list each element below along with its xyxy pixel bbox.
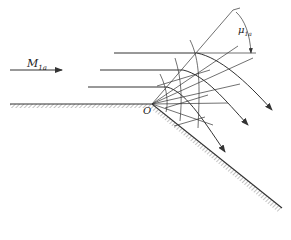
- mach-subscript: 1a: [38, 64, 47, 72]
- mach-angle-label: μ1a: [238, 24, 252, 37]
- mu-subscript: 1a: [245, 30, 252, 37]
- wall: [10, 104, 282, 212]
- corner-label: O: [143, 105, 151, 116]
- mach-symbol: M: [27, 57, 38, 70]
- streamlines: [88, 53, 272, 152]
- freestream-mach-label: M1a: [27, 57, 47, 72]
